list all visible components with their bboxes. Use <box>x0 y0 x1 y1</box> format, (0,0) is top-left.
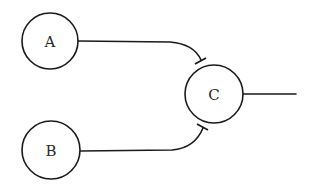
node-c: C <box>185 65 243 123</box>
node-b: B <box>22 121 80 179</box>
node-a-label: A <box>44 33 56 51</box>
node-a: A <box>22 13 78 69</box>
edge-b-to-c <box>80 124 208 151</box>
node-c-label: C <box>208 86 219 104</box>
node-b-label: B <box>45 142 56 160</box>
edge-a-to-c <box>78 41 206 64</box>
diagram-canvas: A B C <box>0 0 314 190</box>
